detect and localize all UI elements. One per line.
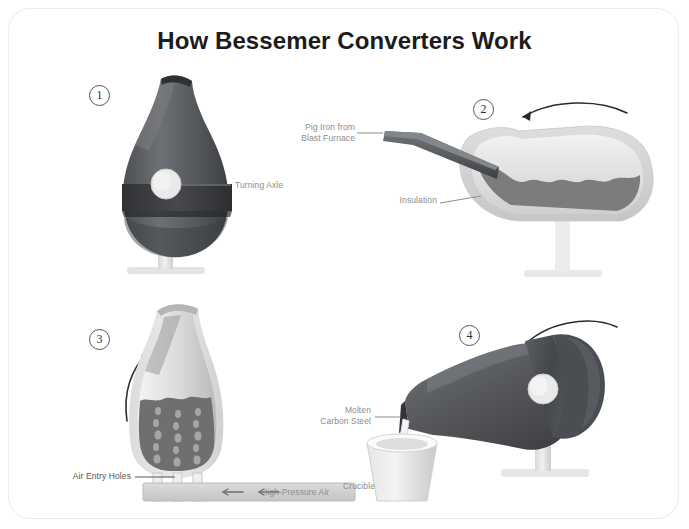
- label-crucible: Crucible: [317, 481, 375, 492]
- stand-column: [555, 217, 570, 271]
- panel-1-upright-converter: 1: [9, 71, 339, 301]
- label-turning-axle: Turning Axle: [235, 180, 283, 191]
- page-title: How Bessemer Converters Work: [9, 27, 680, 55]
- panel-1-illustration: [9, 71, 339, 301]
- rotate-left-arrow: [523, 103, 627, 117]
- label-air-entry-holes: Air Entry Holes: [11, 471, 131, 482]
- crucible-opening: [376, 438, 428, 450]
- label-molten-carbon-steel: Molten Carbon Steel: [285, 405, 371, 427]
- turning-axle-highlight: [153, 171, 171, 191]
- infographic-card: How Bessemer Converters Work 1: [8, 8, 679, 519]
- panel-4-pouring-converter: 4: [349, 297, 689, 512]
- panel-2-illustration: [309, 71, 689, 301]
- label-pig-iron-source: Pig Iron from Blast Furnace: [261, 122, 355, 144]
- label-insulation: Insulation: [339, 195, 437, 206]
- turning-axle-highlight: [530, 376, 548, 396]
- panel-2-charging-converter: 2: [309, 71, 689, 301]
- trunnion-band-shadow: [122, 211, 232, 217]
- stand-base: [524, 270, 602, 277]
- panel-4-illustration: [349, 297, 689, 512]
